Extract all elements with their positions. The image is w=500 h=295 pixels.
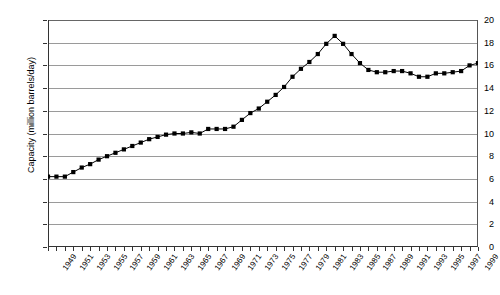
x-tick-mark (427, 247, 428, 251)
data-point-marker (392, 69, 396, 73)
data-point-marker (434, 71, 438, 75)
x-tick-mark (191, 247, 192, 251)
data-point-marker (147, 137, 151, 141)
data-point-marker (476, 61, 478, 65)
data-point-marker (333, 34, 337, 38)
data-point-marker (189, 130, 193, 134)
data-point-marker (375, 70, 379, 74)
x-tick-mark (48, 247, 49, 251)
series-line (48, 36, 478, 177)
x-tick-mark (309, 247, 310, 251)
data-point-marker (54, 175, 58, 179)
data-point-marker (206, 127, 210, 131)
x-tick-label: 1957 (129, 253, 146, 272)
y-axis-title: Capacity (million barrels/day) (26, 20, 36, 210)
data-point-marker (71, 170, 75, 174)
data-point-marker (181, 131, 185, 135)
data-point-marker (122, 147, 126, 151)
x-tick-mark (326, 247, 327, 251)
x-tick-mark (242, 247, 243, 251)
data-point-marker (88, 162, 92, 166)
x-tick-mark (394, 247, 395, 251)
data-point-marker (324, 42, 328, 46)
y-tick-mark (43, 111, 47, 112)
x-tick-mark (90, 247, 91, 251)
x-tick-label: 1981 (331, 253, 348, 272)
y-tick-mark (43, 156, 47, 157)
data-point-marker (442, 71, 446, 75)
data-point-marker (459, 69, 463, 73)
x-tick-label: 1955 (112, 253, 129, 272)
x-tick-label: 1989 (399, 253, 416, 272)
x-tick-mark (73, 247, 74, 251)
x-tick-mark (149, 247, 150, 251)
data-point-marker (299, 67, 303, 71)
x-tick-label: 1987 (382, 253, 399, 272)
x-tick-label: 1973 (264, 253, 281, 272)
x-tick-mark (461, 247, 462, 251)
data-point-marker (400, 69, 404, 73)
x-tick-label: 1971 (247, 253, 264, 272)
x-tick-label: 1983 (348, 253, 365, 272)
x-tick-label: 1995 (449, 253, 466, 272)
data-point-marker (383, 70, 387, 74)
x-tick-mark (478, 247, 479, 251)
data-point-marker (96, 158, 100, 162)
data-point-marker (248, 111, 252, 115)
x-tick-mark (470, 247, 471, 251)
x-tick-mark (436, 247, 437, 251)
x-tick-label: 1979 (315, 253, 332, 272)
line-series-refinery-capacity (48, 20, 478, 247)
data-point-marker (215, 127, 219, 131)
data-point-marker (358, 61, 362, 65)
y-tick-mark (43, 65, 47, 66)
x-tick-mark (276, 247, 277, 251)
series-layer (48, 20, 478, 247)
x-tick-mark (267, 247, 268, 251)
y-tick-mark (43, 88, 47, 89)
x-tick-label: 1993 (433, 253, 450, 272)
x-tick-mark (200, 247, 201, 251)
data-point-marker (425, 75, 429, 79)
y-tick-mark (43, 179, 47, 180)
x-tick-mark (402, 247, 403, 251)
x-tick-mark (208, 247, 209, 251)
data-point-marker (265, 100, 269, 104)
data-point-marker (282, 85, 286, 89)
x-tick-label: 1975 (281, 253, 298, 272)
y-tick-mark (43, 202, 47, 203)
data-point-marker (240, 118, 244, 122)
data-point-marker (130, 144, 134, 148)
data-point-marker (349, 52, 353, 56)
x-tick-label: 1999 (483, 253, 500, 272)
data-point-marker (156, 135, 160, 139)
y-tick-mark (43, 43, 47, 44)
data-point-marker (80, 165, 84, 169)
y-tick-mark (43, 20, 47, 21)
x-tick-label: 1969 (230, 253, 247, 272)
data-point-marker (417, 75, 421, 79)
data-point-marker (467, 63, 471, 67)
x-tick-mark (284, 247, 285, 251)
x-tick-label: 1949 (62, 253, 79, 272)
x-tick-label: 1967 (213, 253, 230, 272)
x-tick-label: 1965 (196, 253, 213, 272)
x-tick-mark (124, 247, 125, 251)
x-tick-mark (141, 247, 142, 251)
x-tick-label: 1991 (416, 253, 433, 272)
x-tick-mark (82, 247, 83, 251)
x-tick-mark (293, 247, 294, 251)
x-tick-mark (444, 247, 445, 251)
data-point-marker (48, 175, 50, 179)
x-tick-mark (385, 247, 386, 251)
x-tick-mark (343, 247, 344, 251)
x-tick-mark (411, 247, 412, 251)
data-point-marker (290, 75, 294, 79)
data-point-marker (139, 140, 143, 144)
x-tick-mark (132, 247, 133, 251)
x-tick-mark (99, 247, 100, 251)
x-tick-mark (174, 247, 175, 251)
x-tick-mark (318, 247, 319, 251)
y-tick-mark (43, 224, 47, 225)
